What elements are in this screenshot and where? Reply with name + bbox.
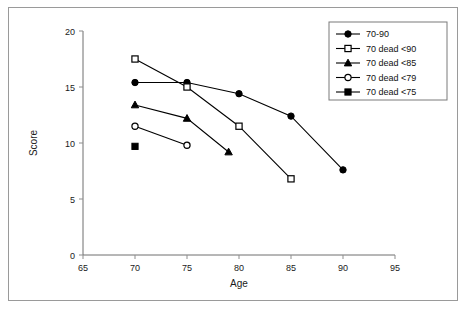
x-tick-label: 80 — [234, 263, 244, 273]
data-point — [132, 123, 138, 129]
x-tick-label: 90 — [338, 263, 348, 273]
data-point — [131, 101, 138, 108]
x-axis-title: Age — [230, 278, 248, 289]
legend-label: 70 dead <79 — [366, 73, 416, 83]
data-point — [184, 84, 190, 90]
y-tick-label: 10 — [65, 139, 75, 149]
legend-marker — [345, 45, 351, 51]
line-chart: 65707580859095Age05101520Score70-9070 de… — [9, 8, 459, 302]
data-point — [236, 91, 242, 97]
x-tick-label: 65 — [78, 263, 88, 273]
series-line — [135, 126, 187, 145]
data-point — [236, 123, 242, 129]
legend-label: 70-90 — [366, 29, 389, 39]
y-axis-title: Score — [28, 130, 39, 157]
x-tick-label: 95 — [390, 263, 400, 273]
y-tick-label: 0 — [70, 251, 75, 261]
series-line — [135, 59, 291, 179]
legend-label: 70 dead <85 — [366, 58, 416, 68]
data-point — [132, 79, 138, 85]
x-tick-label: 75 — [182, 263, 192, 273]
data-point — [288, 176, 294, 182]
data-point — [184, 142, 190, 148]
data-point — [132, 56, 138, 62]
legend-marker — [345, 31, 351, 37]
data-point — [132, 143, 138, 149]
x-tick-label: 85 — [286, 263, 296, 273]
series-line — [135, 105, 229, 152]
legend-marker — [345, 89, 351, 95]
x-tick-label: 70 — [130, 263, 140, 273]
y-tick-label: 15 — [65, 83, 75, 93]
data-point — [288, 113, 294, 119]
legend-label: 70 dead <75 — [366, 87, 416, 97]
legend-label: 70 dead <90 — [366, 44, 416, 54]
y-tick-label: 20 — [65, 27, 75, 37]
chart-frame: 65707580859095Age05101520Score70-9070 de… — [8, 7, 458, 301]
data-point — [340, 167, 346, 173]
y-tick-label: 5 — [70, 195, 75, 205]
legend-marker — [345, 74, 351, 80]
